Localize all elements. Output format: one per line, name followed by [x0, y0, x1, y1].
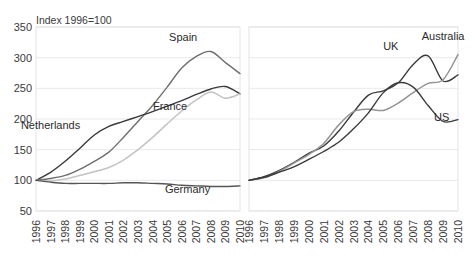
x-tick-label: 2009: [437, 220, 449, 244]
x-tick-label: 2004: [362, 220, 374, 244]
series-label-netherlands: Netherlands: [21, 119, 81, 131]
y-tick-label: 250: [14, 82, 32, 94]
x-tick-label: 2005: [377, 220, 389, 244]
y-tick-label: 50: [20, 205, 32, 217]
x-tick-label: 1996: [243, 220, 255, 244]
x-tick-label: 2010: [452, 220, 464, 244]
x-tick-label: 1998: [273, 220, 285, 244]
x-tick-label: 2006: [176, 220, 188, 244]
x-tick-label: 2003: [132, 220, 144, 244]
x-tick-label: 1997: [45, 220, 57, 244]
y-tick-label: 350: [14, 21, 32, 33]
x-axis-group: 1996199719981999200020012002200320042005…: [30, 220, 464, 244]
x-tick-label: 1998: [59, 220, 71, 244]
chart-container: Index 1996=100 50100150200250300350 1996…: [0, 0, 475, 261]
x-tick-label: 1999: [288, 220, 300, 244]
x-tick-label: 2000: [88, 220, 100, 244]
series-label-germany: Germany: [165, 183, 211, 195]
series-label-australia: Australia: [422, 30, 466, 42]
x-tick-label: 2002: [333, 220, 345, 244]
x-tick-label: 2007: [190, 220, 202, 244]
chart-title: Index 1996=100: [36, 14, 112, 26]
x-tick-label: 2009: [219, 220, 231, 244]
house-price-index-chart: Index 1996=100 50100150200250300350 1996…: [0, 0, 475, 261]
x-tick-label: 2000: [303, 220, 315, 244]
x-tick-label: 2007: [407, 220, 419, 244]
x-tick-label: 1999: [74, 220, 86, 244]
x-tick-label: 2001: [318, 220, 330, 244]
x-tick-label: 2002: [117, 220, 129, 244]
chart-title-group: Index 1996=100: [36, 14, 112, 26]
x-tick-label: 2008: [205, 220, 217, 244]
y-tick-label: 100: [14, 174, 32, 186]
x-tick-label: 2003: [348, 220, 360, 244]
y-tick-label: 300: [14, 52, 32, 64]
x-tick-label: 1996: [30, 220, 42, 244]
x-tick-label: 2004: [147, 220, 159, 244]
x-tick-label: 1997: [258, 220, 270, 244]
y-tick-label: 150: [14, 144, 32, 156]
series-label-uk: UK: [383, 40, 399, 52]
x-tick-label: 2001: [103, 220, 115, 244]
series-label-france: France: [153, 100, 187, 112]
x-tick-label: 2005: [161, 220, 173, 244]
series-label-us: US: [434, 111, 449, 123]
x-tick-label: 2006: [392, 220, 404, 244]
series-label-spain: Spain: [169, 31, 197, 43]
x-tick-label: 2008: [422, 220, 434, 244]
